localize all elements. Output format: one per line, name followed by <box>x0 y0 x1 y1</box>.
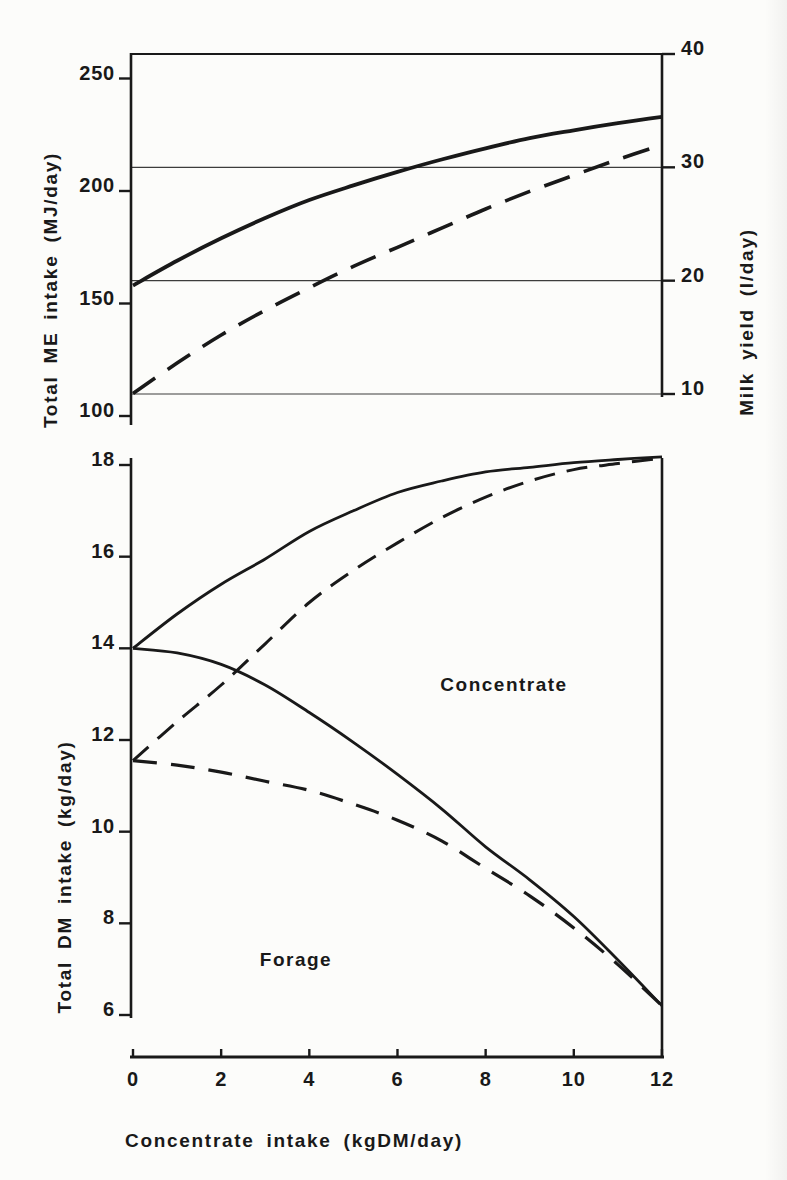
bottom-curve-total-dm-solid <box>133 457 662 649</box>
dm-tick-label: 12 <box>91 723 115 745</box>
me-tick-label: 100 <box>79 399 115 421</box>
bottom-curve-total-dm-dashed <box>133 458 662 761</box>
concentrate-region-label: Concentrate <box>440 674 567 695</box>
forage-region-label: Forage <box>260 949 332 970</box>
milk-tick-label: 30 <box>681 150 705 172</box>
top-curve-solid <box>133 117 662 286</box>
milk-tick-label: 20 <box>681 264 705 286</box>
bottom-left-axis-title: Total DM intake (kg/day) <box>54 741 75 1014</box>
top-curve-dashed <box>133 145 662 394</box>
me-tick-label: 250 <box>79 62 115 84</box>
dm-tick-label: 6 <box>103 998 115 1020</box>
dual-panel-line-chart: 25020015010040302010 1816141210860246810… <box>0 0 787 1180</box>
dm-tick-label: 16 <box>91 540 115 562</box>
milk-tick-label: 40 <box>681 37 705 59</box>
bottom-chart-panel: 181614121086024681012 <box>91 448 674 1090</box>
static-labels: Total ME intake (MJ/day) Milk yield (l/d… <box>40 152 757 1151</box>
dm-tick-label: 18 <box>91 448 115 470</box>
dm-tick-label: 8 <box>103 906 115 928</box>
dm-tick-label: 10 <box>91 815 115 837</box>
dm-tick-label: 14 <box>91 631 115 653</box>
bottom-curve-forage-boundary-solid <box>133 648 662 1005</box>
x-tick-label: 0 <box>127 1068 139 1090</box>
x-tick-label: 2 <box>215 1068 227 1090</box>
x-tick-label: 4 <box>303 1068 315 1090</box>
milk-tick-label: 10 <box>681 377 705 399</box>
bottom-curve-forage-boundary-dashed <box>133 761 662 1006</box>
top-chart-panel: 25020015010040302010 <box>79 37 705 425</box>
top-left-axis-title: Total ME intake (MJ/day) <box>40 152 61 428</box>
scanned-figure-page: 25020015010040302010 1816141210860246810… <box>0 0 787 1180</box>
x-tick-label: 6 <box>392 1068 404 1090</box>
x-tick-label: 12 <box>650 1068 674 1090</box>
x-tick-label: 10 <box>562 1068 586 1090</box>
x-tick-label: 8 <box>480 1068 492 1090</box>
me-tick-label: 200 <box>79 174 115 196</box>
x-axis-title: Concentrate intake (kgDM/day) <box>125 1130 463 1151</box>
me-tick-label: 150 <box>79 287 115 309</box>
top-right-axis-title: Milk yield (l/day) <box>736 228 757 415</box>
